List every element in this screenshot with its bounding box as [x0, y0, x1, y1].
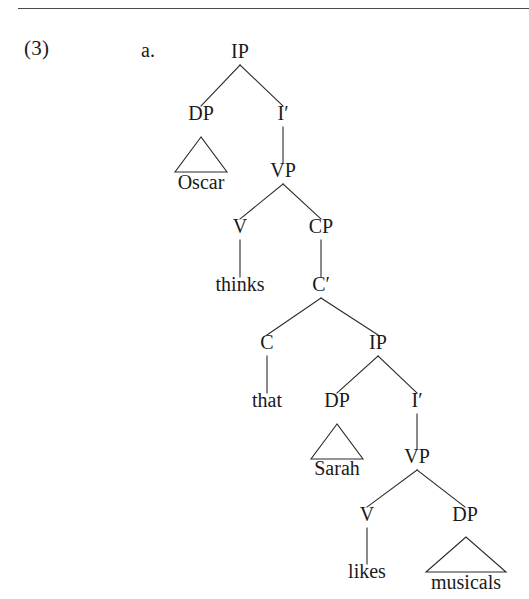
tree-node-DP1: DP — [188, 102, 214, 124]
tree-triangle-Oscar — [175, 137, 227, 172]
tree-node-DP3: DP — [452, 503, 478, 525]
tree-node-C1: C — [260, 331, 273, 353]
tree-node-musicals: musicals — [431, 571, 501, 593]
tree-node-layer: IPDPI′OscarVPVCPthinksC′CIPthatDPI′Sarah… — [178, 40, 502, 593]
tree-branch-VP1-V1 — [240, 184, 283, 219]
tree-branch-VP2-DP3 — [417, 470, 465, 507]
tree-branch-IP1-Ibar1 — [240, 65, 283, 106]
tree-branch-IP1-DP1 — [201, 65, 240, 106]
tree-node-DP2: DP — [324, 389, 350, 411]
tree-branch-VP1-CP1 — [283, 184, 321, 219]
tree-node-Oscar: Oscar — [178, 171, 225, 193]
tree-node-VP1: VP — [270, 159, 296, 181]
tree-node-IP1: IP — [231, 40, 249, 62]
tree-node-likes: likes — [348, 560, 386, 582]
tree-node-V1: V — [233, 215, 248, 237]
tree-node-VP2: VP — [404, 445, 430, 467]
tree-branch-VP2-V2 — [367, 470, 417, 507]
tree-node-Ibar2: I′ — [411, 389, 422, 411]
tree-triangle-musicals — [426, 537, 506, 572]
tree-node-that: that — [252, 389, 282, 411]
tree-branch-layer — [201, 65, 465, 564]
tree-branch-Cbar1-IP2 — [321, 298, 378, 335]
tree-node-CP1: CP — [309, 215, 333, 237]
tree-node-Sarah: Sarah — [314, 457, 360, 479]
tree-node-thinks: thinks — [216, 273, 265, 295]
tree-node-V2: V — [360, 503, 375, 525]
tree-node-IP2: IP — [369, 331, 387, 353]
tree-node-Ibar1: I′ — [277, 102, 288, 124]
syntax-tree-diagram: IPDPI′OscarVPVCPthinksC′CIPthatDPI′Sarah… — [0, 0, 529, 599]
tree-branch-IP2-DP2 — [337, 356, 378, 393]
tree-node-Cbar1: C′ — [312, 273, 330, 295]
tree-triangle-Sarah — [311, 424, 363, 459]
tree-branch-IP2-Ibar2 — [378, 356, 417, 393]
tree-branch-Cbar1-C1 — [267, 298, 321, 335]
page-canvas: (3) a. IPDPI′OscarVPVCPthinksC′CIPthatDP… — [0, 0, 529, 599]
